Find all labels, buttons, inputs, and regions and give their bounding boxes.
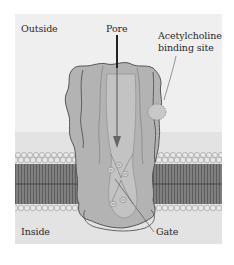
binding-site-marker <box>148 104 166 120</box>
inside-label: Inside <box>21 227 50 237</box>
binding-site-leader <box>164 56 176 100</box>
gate-label: Gate <box>156 227 178 237</box>
outside-label: Outside <box>21 24 58 34</box>
pore-label: Pore <box>106 24 128 34</box>
diagram-panel: Outside Pore Acetylcholine binding site … <box>15 14 222 244</box>
binding-site-label-line1: Acetylcholine <box>158 31 222 41</box>
binding-site-label-line2: binding site <box>158 43 214 53</box>
